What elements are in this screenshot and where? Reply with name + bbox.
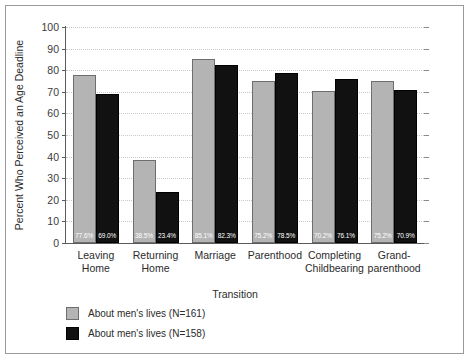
bar-value-label: 70.9% — [395, 232, 416, 240]
bar: 85.1% — [192, 59, 215, 243]
y-axis-tick-label: 50 — [47, 130, 59, 141]
bar-group: 77.6%69.0% — [73, 27, 119, 243]
y-axis-tick-label: 90 — [47, 43, 59, 54]
bar-value-label: 75.2% — [253, 232, 274, 240]
bar-value-label: 82.3% — [216, 232, 237, 240]
y-axis-tick-right — [424, 70, 429, 71]
bar: 77.6% — [73, 75, 96, 243]
y-axis-tick — [62, 92, 66, 93]
legend-swatch — [66, 307, 79, 320]
bar: 23.4% — [156, 192, 179, 243]
y-axis-tick-right — [424, 178, 429, 179]
x-axis-title: Transition — [0, 288, 470, 300]
y-axis-tick-right — [424, 157, 429, 158]
plot-area: 0102030405060708090100 77.6%69.0%38.5%23… — [66, 27, 424, 243]
bar-group: 75.2%70.9% — [371, 27, 417, 243]
y-axis-tick-label: 60 — [47, 108, 59, 119]
y-axis-tick-label: 40 — [47, 151, 59, 162]
bar-group: 38.5%23.4% — [133, 27, 179, 243]
bar: 82.3% — [215, 65, 238, 243]
y-axis-tick — [62, 243, 66, 244]
y-axis-tick — [62, 70, 66, 71]
y-axis-tick-right — [424, 92, 429, 93]
legend-item: About men's lives (N=158) — [66, 323, 205, 343]
y-axis-tick — [62, 178, 66, 179]
y-axis-tick-label: 0 — [53, 238, 59, 249]
legend-label: About men's lives (N=158) — [88, 328, 205, 339]
bar: 78.5% — [275, 73, 298, 243]
bar: 70.9% — [394, 90, 417, 243]
y-axis-tick — [62, 135, 66, 136]
y-axis-tick-label: 100 — [41, 22, 59, 33]
bar-group: 70.2%76.1% — [312, 27, 358, 243]
bar: 38.5% — [133, 160, 156, 243]
x-axis-category-label: Grand- parenthood — [358, 249, 430, 274]
y-axis-tick — [62, 49, 66, 50]
y-axis-tick — [62, 113, 66, 114]
bar: 76.1% — [335, 79, 358, 243]
y-axis-tick — [62, 157, 66, 158]
y-axis-tick — [62, 221, 66, 222]
y-axis-tick-right — [424, 200, 429, 201]
bar-value-label: 85.1% — [193, 232, 214, 240]
legend-item: About men's lives (N=161) — [66, 303, 205, 323]
y-axis-tick — [62, 200, 66, 201]
y-axis-tick-right — [424, 49, 429, 50]
y-axis-tick-right — [424, 243, 429, 244]
y-axis-tick-right — [424, 221, 429, 222]
bar: 75.2% — [252, 81, 275, 243]
y-axis-tick-right — [424, 27, 429, 28]
bar-value-label: 76.1% — [336, 232, 357, 240]
bar: 70.2% — [312, 91, 335, 243]
legend-label: About men's lives (N=161) — [88, 308, 205, 319]
bar-value-label: 78.5% — [276, 232, 297, 240]
legend-swatch — [66, 327, 79, 340]
chart-legend: About men's lives (N=161)About men's liv… — [66, 303, 205, 343]
x-axis-line — [65, 243, 425, 244]
y-axis-tick-right — [424, 113, 429, 114]
bar-group: 75.2%78.5% — [252, 27, 298, 243]
y-axis-tick-label: 80 — [47, 65, 59, 76]
y-axis-tick — [62, 27, 66, 28]
bar-value-label: 23.4% — [157, 232, 178, 240]
y-axis-tick-label: 30 — [47, 173, 59, 184]
y-axis-tick-label: 10 — [47, 216, 59, 227]
bar-value-label: 75.2% — [372, 232, 393, 240]
bar-group: 85.1%82.3% — [192, 27, 238, 243]
y-axis-tick-label: 20 — [47, 195, 59, 206]
y-axis-tick-label: 70 — [47, 87, 59, 98]
y-axis-tick-right — [424, 135, 429, 136]
bar: 75.2% — [371, 81, 394, 243]
y-axis-title: Percent Who Perceived an Age Deadline — [12, 27, 26, 243]
bar: 69.0% — [96, 94, 119, 243]
bar-value-label: 38.5% — [134, 232, 155, 240]
chart-figure: Percent Who Perceived an Age Deadline 01… — [0, 0, 470, 360]
bar-value-label: 77.6% — [74, 232, 95, 240]
bar-value-label: 69.0% — [97, 232, 118, 240]
bar-value-label: 70.2% — [313, 232, 334, 240]
